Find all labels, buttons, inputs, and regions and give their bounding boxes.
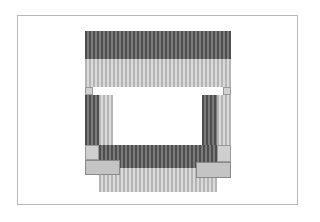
- bottom-left-block: [85, 160, 120, 175]
- left-light-column: [99, 95, 113, 145]
- bottom-left-square: [85, 145, 99, 160]
- bottom-right-block: [196, 162, 231, 178]
- right-light-column: [217, 95, 231, 145]
- right-dark-column: [202, 95, 217, 145]
- top-dark-band: [85, 31, 231, 59]
- top-light-band: [85, 59, 231, 87]
- top-right-spacer: [223, 87, 231, 95]
- bottom-right-square: [217, 145, 231, 162]
- top-left-spacer: [85, 87, 93, 95]
- left-dark-column: [85, 95, 99, 145]
